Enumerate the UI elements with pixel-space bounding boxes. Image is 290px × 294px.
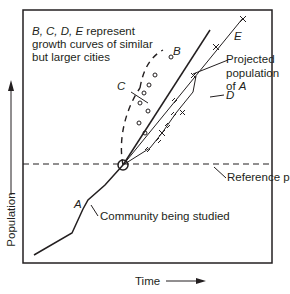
y-axis-arrowhead-icon — [8, 80, 14, 91]
projected-label-line3: of — [226, 80, 239, 92]
label-e: E — [234, 30, 242, 43]
leader-d — [210, 95, 224, 97]
community-label: Community being studied — [100, 210, 230, 223]
label-c: C — [117, 80, 125, 93]
legend-note-line1: represent — [83, 25, 135, 37]
label-a: A — [74, 198, 82, 211]
projected-label-a: A — [239, 80, 247, 92]
legend-note-curves: B, C, D, E — [32, 25, 83, 37]
legend-note: B, C, D, E represent growth curves of si… — [32, 25, 153, 64]
y-axis-label: Population — [5, 185, 18, 255]
curve-d — [123, 92, 193, 165]
projected-label-line2: population — [226, 67, 279, 81]
legend-note-line2: growth curves of similar — [32, 38, 153, 51]
reference-label: Reference population — [227, 171, 290, 184]
legend-note-line3: but larger cities — [32, 51, 153, 64]
leader-reference — [214, 167, 226, 178]
leader-projected — [193, 60, 228, 74]
label-b: B — [173, 45, 181, 58]
projected-label: Projected population of A — [226, 53, 279, 94]
leader-community — [91, 205, 98, 216]
x-axis-label: Time — [135, 275, 160, 288]
projected-label-line1: Projected — [226, 53, 279, 67]
x-axis-arrowhead-icon — [196, 278, 206, 284]
